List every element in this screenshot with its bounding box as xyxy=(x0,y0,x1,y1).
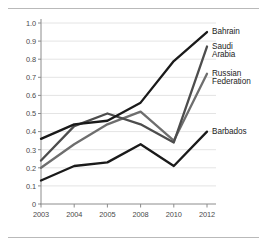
y-tick-label-0.7: 0.7 xyxy=(14,73,36,82)
y-tick-label-0.3: 0.3 xyxy=(14,146,36,155)
x-tick-label-2005: 2005 xyxy=(94,210,120,219)
y-tick-label-0.6: 0.6 xyxy=(14,91,36,100)
series-label-barbados-text: Barbados xyxy=(212,127,247,136)
x-tick-label-2004: 2004 xyxy=(61,210,87,219)
series-label-bahrain-text: Bahrain xyxy=(212,27,240,36)
y-tick-label-0.1: 0.1 xyxy=(14,182,36,191)
series-label-russian-federation: Russian Federation xyxy=(212,70,251,87)
series-label-barbados: Barbados xyxy=(212,128,247,137)
series-line-saudi-arabia xyxy=(41,47,207,161)
series-label-saudi-line2: Arabia xyxy=(212,51,235,60)
x-tick-label-2003: 2003 xyxy=(28,210,54,219)
series-label-bahrain: Bahrain xyxy=(212,28,240,37)
y-tick-label-0: 0 xyxy=(14,200,36,209)
series-line-barbados xyxy=(41,132,207,181)
y-tick-label-0.2: 0.2 xyxy=(14,164,36,173)
y-tick-label-0.5: 0.5 xyxy=(14,109,36,118)
y-tick-label-1.0: 1.0 xyxy=(14,19,36,28)
y-tick-label-0.9: 0.9 xyxy=(14,37,36,46)
x-tick-label-2010: 2010 xyxy=(161,210,187,219)
y-tick-label-0.8: 0.8 xyxy=(14,55,36,64)
x-tick-label-2012: 2012 xyxy=(194,210,220,219)
chart-figure: 00.10.20.30.40.50.60.70.80.91.0 20032004… xyxy=(0,0,267,249)
series-label-russian-line2: Federation xyxy=(212,78,251,87)
y-tick-label-0.4: 0.4 xyxy=(14,127,36,136)
x-tick-label-2008: 2008 xyxy=(128,210,154,219)
series-lines-group xyxy=(41,32,207,180)
series-label-saudi-arabia: Saudi Arabia xyxy=(212,43,235,60)
x-tick-marks-group xyxy=(41,204,207,208)
